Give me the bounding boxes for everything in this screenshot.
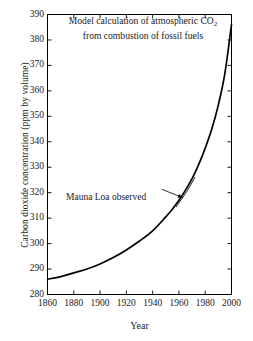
model-curve-line [48,25,232,280]
plot-area [0,0,253,341]
annotation-arrow [162,189,183,198]
co2-chart-figure: Carbon dioxide concentration (ppm by vol… [0,0,253,341]
mauna-loa-observed-line [176,177,194,206]
axis-ticks [48,15,232,295]
plot-frame [48,15,232,295]
